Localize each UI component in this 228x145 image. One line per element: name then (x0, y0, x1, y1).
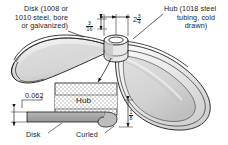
hub-callout-line-3: drawn) (164, 22, 228, 31)
hub-wall-denominator: 16 (86, 26, 93, 32)
top-dimension-group (97, 14, 130, 36)
hub-section-leader-line (98, 58, 111, 82)
hub-shading (105, 42, 113, 60)
hub-material-callout: Hub (1018 steel tubing, cold drawn) (164, 5, 228, 31)
disk-callout-leader (68, 31, 84, 37)
hub-diameter-fraction: 3 4 (137, 14, 141, 25)
hub-wall-thickness-dimension: 3 16 (86, 17, 93, 35)
hub-height-fraction: 1 8 (129, 110, 133, 121)
disk-left-wing (12, 35, 113, 83)
technical-drawing-figure: Disk (1008 or 1010 steel, bore or galvan… (0, 0, 228, 145)
hub-bore-opening (109, 37, 123, 43)
hub-wall-fraction: 3 16 (86, 21, 93, 32)
disk-material-callout: Disk (1008 or 1010 steel, bore or galvan… (2, 5, 68, 31)
section-disk-plate (27, 112, 105, 122)
hub-section-label: Hub (76, 97, 91, 106)
disk-thickness-dimension: 0.062 (25, 92, 44, 101)
disk-callout-line-3: or galvanized) (2, 22, 68, 31)
hub-diameter-denominator: 4 (137, 19, 141, 25)
curled-section-label: Curled (76, 131, 98, 140)
hub-diameter-dimension: 2 3 4 (133, 10, 141, 28)
hub-height-denominator: 8 (129, 115, 133, 121)
disk-section-label: Disk (26, 131, 40, 140)
section-disk-label-leader (48, 123, 62, 133)
hub-height-dimension: 1 8 (129, 106, 133, 124)
pictorial-hub (104, 35, 128, 62)
